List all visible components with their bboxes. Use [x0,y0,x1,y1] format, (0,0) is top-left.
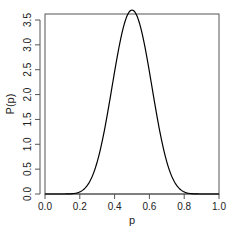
density-chart: 0.00.20.40.60.81.0 0.00.51.01.52.02.53.0… [0,0,237,235]
x-tick-label: 0.2 [73,201,87,212]
x-axis-label: p [129,214,135,226]
y-tick-label: 2.5 [22,62,33,76]
y-tick-label: 3.0 [22,37,33,51]
y-tick-label: 1.0 [22,137,33,151]
x-tick-label: 0.0 [38,201,52,212]
plot-frame [45,14,219,194]
y-axis-label: P(p) [4,94,16,115]
x-tick-label: 0.8 [177,201,191,212]
density-curve [45,10,219,194]
x-tick-label: 0.6 [142,201,156,212]
y-axis: 0.00.51.01.52.02.53.03.5 [22,13,40,201]
x-axis: 0.00.20.40.60.81.0 [38,194,226,212]
y-tick-label: 2.0 [22,87,33,101]
y-tick-label: 3.5 [22,13,33,27]
x-tick-label: 1.0 [212,201,226,212]
y-tick-label: 1.5 [22,112,33,126]
y-tick-label: 0.0 [22,187,33,201]
y-tick-label: 0.5 [22,162,33,176]
x-tick-label: 0.4 [108,201,122,212]
